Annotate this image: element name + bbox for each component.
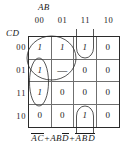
top-variable-label: AB bbox=[38, 2, 50, 12]
row-header-3: 10 bbox=[6, 105, 27, 128]
cell-value: 0 bbox=[38, 111, 43, 120]
kmap-cell-r0c3: 0 bbox=[97, 37, 120, 60]
cell-value: 1 bbox=[83, 43, 88, 52]
column-header-1: 01 bbox=[51, 14, 74, 26]
kmap-cell-r3c3: 0 bbox=[97, 105, 120, 128]
kmap-grid: 1 1 1 0 1 — 0 0 1 0 0 0 0 0 1 0 bbox=[28, 36, 120, 128]
row-header-column: 00 01 11 10 bbox=[6, 36, 27, 128]
row-header-2: 11 bbox=[6, 82, 27, 105]
cell-value: 1 bbox=[60, 43, 65, 52]
kmap-cell-r3c0: 0 bbox=[29, 105, 52, 128]
kmap-cell-r2c3: 0 bbox=[97, 82, 120, 105]
kmap-cell-r3c1: 0 bbox=[52, 105, 75, 128]
karnaugh-map-figure: AB CD 00 01 11 10 00 01 11 10 1 1 1 0 1 … bbox=[0, 0, 126, 151]
cell-value: 0 bbox=[83, 66, 88, 75]
kmap-cell-r2c2: 0 bbox=[74, 82, 97, 105]
row-header-1: 01 bbox=[6, 59, 27, 82]
expr-term2-literal1: AB bbox=[50, 133, 61, 143]
cell-value: 1 bbox=[38, 66, 43, 75]
cell-value: 1 bbox=[38, 88, 43, 97]
kmap-cell-r1c2: 0 bbox=[74, 60, 97, 83]
expr-term3-literal3: D bbox=[88, 133, 95, 143]
column-header-row: 00 01 11 10 bbox=[28, 14, 120, 26]
column-header-3: 10 bbox=[97, 14, 120, 26]
cell-value: 0 bbox=[106, 43, 111, 52]
cell-value: 0 bbox=[106, 111, 111, 120]
kmap-cell-r0c1: 1 bbox=[52, 37, 75, 60]
cell-value: 1 bbox=[83, 111, 88, 120]
kmap-cell-r1c1: — bbox=[52, 60, 75, 83]
cell-value: 0 bbox=[83, 88, 88, 97]
cell-value: 0 bbox=[60, 111, 65, 120]
kmap-cell-r2c0: 1 bbox=[29, 82, 52, 105]
cell-value: 0 bbox=[106, 66, 111, 75]
result-expression: AC+ABD+ABD bbox=[0, 133, 126, 143]
kmap-cell-r0c0: 1 bbox=[29, 37, 52, 60]
kmap-cell-r2c1: 0 bbox=[52, 82, 75, 105]
cell-value: 0 bbox=[60, 88, 65, 97]
kmap-cell-r1c3: 0 bbox=[97, 60, 120, 83]
cell-value: 1 bbox=[38, 43, 43, 52]
kmap-cell-r3c2: 1 bbox=[74, 105, 97, 128]
column-header-0: 00 bbox=[28, 14, 51, 26]
expr-term2-literal2: D bbox=[62, 133, 69, 143]
kmap-cell-r0c2: 1 bbox=[74, 37, 97, 60]
column-header-2: 11 bbox=[74, 14, 97, 26]
kmap-cell-r1c0: 1 bbox=[29, 60, 52, 83]
row-header-0: 00 bbox=[6, 36, 27, 59]
expr-term1-literal2: C bbox=[37, 133, 44, 143]
cell-value: — bbox=[57, 66, 67, 75]
cell-value: 0 bbox=[106, 88, 111, 97]
